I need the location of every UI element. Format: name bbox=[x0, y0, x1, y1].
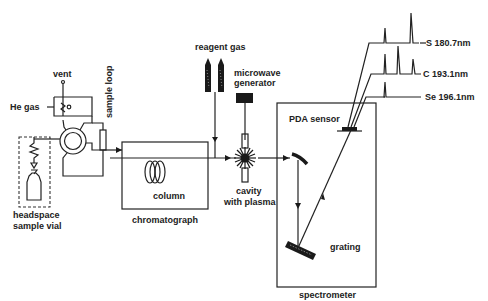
sample-loop-label: sample loop bbox=[104, 65, 114, 118]
grating-label: grating bbox=[330, 242, 361, 252]
carrier-flow-line bbox=[103, 147, 290, 161]
chromatogram-s bbox=[383, 13, 419, 43]
column-label: column bbox=[153, 191, 185, 201]
channel-leads bbox=[348, 43, 385, 127]
channel-label-se: Se 196.1nm bbox=[425, 92, 475, 102]
microwave-generator-icon bbox=[236, 93, 253, 103]
spectrometer-label: spectrometer bbox=[299, 290, 357, 300]
chromatogram-se bbox=[384, 82, 421, 97]
mirror-icon bbox=[292, 154, 307, 164]
cavity-label-2: with plasma bbox=[223, 197, 277, 207]
column-coil-icon bbox=[145, 161, 165, 183]
gc-aed-schematic: headspace sample vial vent He gas sample… bbox=[0, 0, 488, 301]
headspace-sample-vial bbox=[19, 137, 50, 207]
vent-label: vent bbox=[53, 69, 72, 79]
pda-sensor-label: PDA sensor bbox=[289, 114, 340, 124]
chromatograph-label: chromatograph bbox=[132, 215, 198, 225]
microwave-label-1: microwave bbox=[234, 68, 281, 78]
reagent-gas-label: reagent gas bbox=[195, 42, 246, 52]
chromatogram-c bbox=[383, 46, 421, 74]
cavity-label-1: cavity bbox=[236, 186, 262, 196]
channel-label-c: C 193.1nm bbox=[423, 69, 468, 79]
six-port-valve bbox=[34, 116, 103, 176]
headspace-label-2: sample vial bbox=[13, 221, 62, 231]
plasma-cavity-icon bbox=[234, 134, 256, 182]
microwave-label-2: generator bbox=[234, 78, 276, 88]
channel-label-s: S 180.7nm bbox=[426, 38, 471, 48]
sample-loop bbox=[92, 123, 106, 150]
headspace-label-1: headspace bbox=[13, 210, 60, 220]
he-gas-vent-lines bbox=[47, 81, 92, 117]
diffracted-beam bbox=[298, 130, 351, 248]
he-gas-label: He gas bbox=[10, 102, 40, 112]
